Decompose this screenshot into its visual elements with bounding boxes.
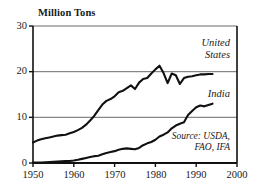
x-tick-label-1970: 1970 [102,170,128,181]
series-label-united-states: United States [160,37,230,61]
y-tick-label-0: 0 [8,158,27,169]
y-tick-label-20: 20 [8,66,27,77]
x-tick-label-1960: 1960 [61,170,87,181]
x-tick-label-1980: 1980 [143,170,169,181]
y-tick-label-10: 10 [8,112,27,123]
series-label-india: India [170,88,230,100]
y-tick-label-30: 30 [8,21,27,32]
source-note-line2: FAO, IFA [194,142,230,152]
chart-axis-title: Million Tons [38,8,96,19]
x-tick-label-2000: 2000 [224,170,250,181]
series-label-united-states-line1: United [201,37,230,48]
x-tick-label-1990: 1990 [183,170,209,181]
source-note: Source: USDA, FAO, IFA [136,131,230,153]
chart-container: Million Tons 30 20 10 0 1950 1960 1970 1… [0,0,259,190]
source-note-line1: Source: USDA, [172,131,230,141]
x-tick-label-1950: 1950 [20,170,46,181]
series-label-united-states-line2: States [205,49,230,60]
